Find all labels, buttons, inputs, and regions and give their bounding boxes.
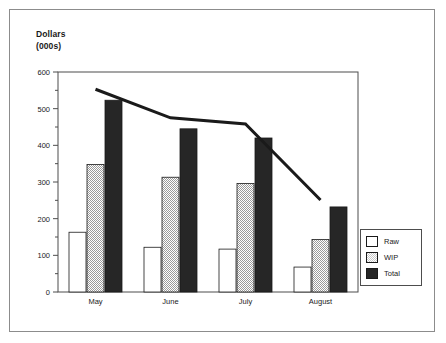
y-axis-label: 400 [37, 141, 50, 150]
legend-swatch-total [366, 268, 378, 279]
bar-wip[interactable] [237, 183, 254, 292]
trend-line [96, 89, 321, 200]
legend-label-wip: WIP [384, 253, 398, 262]
x-axis-label: July [239, 297, 253, 306]
y-axis-label: 0 [46, 288, 50, 297]
bar-raw[interactable] [144, 247, 161, 292]
legend-item-total[interactable]: Total [366, 267, 400, 280]
legend-item-wip[interactable]: WIP [366, 251, 398, 264]
bar-total[interactable] [105, 100, 122, 292]
bar-wip[interactable] [162, 177, 179, 292]
x-axis-label: June [162, 297, 178, 306]
plot-area: 0100200300400500600MayJuneJulyAugust [0, 0, 446, 343]
x-axis-label: May [88, 297, 102, 306]
bar-wip[interactable] [312, 240, 329, 292]
chart-legend: Raw WIP Total [360, 229, 422, 286]
y-axis-label: 300 [37, 178, 50, 187]
y-axis-label: 500 [37, 105, 50, 114]
legend-swatch-raw [366, 236, 378, 247]
legend-item-raw[interactable]: Raw [366, 235, 399, 248]
bar-raw[interactable] [69, 232, 86, 292]
bar-wip[interactable] [87, 164, 104, 292]
chart-screenshot: Dollars (000s) 0100200300400500600MayJun… [0, 0, 446, 343]
legend-swatch-wip [366, 252, 378, 263]
bar-raw[interactable] [294, 267, 311, 292]
legend-label-total: Total [384, 269, 400, 278]
bar-total[interactable] [330, 207, 347, 292]
x-axis-label: August [309, 297, 333, 306]
bar-total[interactable] [255, 138, 272, 292]
y-axis-label: 600 [37, 68, 50, 77]
bar-raw[interactable] [219, 249, 236, 292]
bar-total[interactable] [180, 129, 197, 292]
y-axis-label: 100 [37, 251, 50, 260]
chart-canvas: 0100200300400500600MayJuneJulyAugust [0, 0, 446, 343]
y-axis-label: 200 [37, 215, 50, 224]
legend-label-raw: Raw [384, 237, 399, 246]
